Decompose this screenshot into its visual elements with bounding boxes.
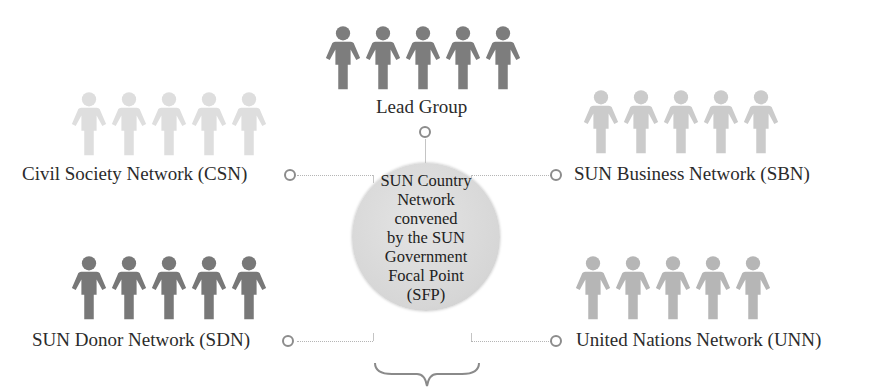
sdn-label: SUN Donor Network (SDN): [32, 329, 250, 351]
person-icon: [694, 252, 732, 324]
person-icon: [110, 252, 148, 324]
person-icon: [190, 252, 228, 324]
sdn-connector-rise: [373, 333, 374, 341]
person-icon: [230, 90, 268, 158]
sdn-people: [70, 252, 268, 324]
center-line: Government: [361, 247, 491, 266]
person-icon: [230, 252, 268, 324]
person-icon: [324, 22, 362, 94]
person-icon: [742, 86, 780, 158]
center-line: by the SUN: [361, 228, 491, 247]
lead-group-people: [324, 22, 522, 94]
unn-people: [574, 252, 772, 324]
center-line: convened: [361, 209, 491, 228]
sbn-node: [550, 169, 562, 181]
person-icon: [404, 22, 442, 94]
curly-brace-icon: [372, 360, 482, 390]
csn-node: [284, 169, 296, 181]
lead-group-node: [419, 126, 431, 138]
center-line: SUN Country: [361, 171, 491, 190]
csn-people: [70, 90, 268, 158]
sun-country-network-circle: SUN Country Network convened by the SUN …: [352, 163, 500, 311]
person-icon: [574, 252, 612, 324]
lead-connector: [425, 139, 426, 165]
center-line: Network: [361, 190, 491, 209]
sbn-people: [582, 86, 780, 158]
person-icon: [734, 252, 772, 324]
sdn-connector: [297, 341, 373, 342]
unn-label: United Nations Network (UNN): [576, 329, 821, 351]
person-icon: [70, 252, 108, 324]
unn-connector: [471, 341, 551, 342]
person-icon: [614, 252, 652, 324]
unn-connector-rise: [471, 333, 472, 341]
center-line: (SFP): [361, 285, 491, 304]
person-icon: [622, 86, 660, 158]
lead-group-label: Lead Group: [376, 96, 467, 118]
person-icon: [702, 86, 740, 158]
person-icon: [662, 86, 700, 158]
person-icon: [110, 90, 148, 158]
person-icon: [364, 22, 402, 94]
center-line: Focal Point: [361, 266, 491, 285]
person-icon: [654, 252, 692, 324]
csn-label: Civil Society Network (CSN): [22, 163, 247, 185]
person-icon: [150, 252, 188, 324]
center-text: SUN Country Network convened by the SUN …: [361, 171, 491, 304]
sdn-node: [282, 335, 294, 347]
sbn-label: SUN Business Network (SBN): [574, 163, 810, 185]
person-icon: [582, 86, 620, 158]
person-icon: [444, 22, 482, 94]
unn-node: [550, 335, 562, 347]
person-icon: [190, 90, 228, 158]
person-icon: [150, 90, 188, 158]
person-icon: [70, 90, 108, 158]
person-icon: [484, 22, 522, 94]
